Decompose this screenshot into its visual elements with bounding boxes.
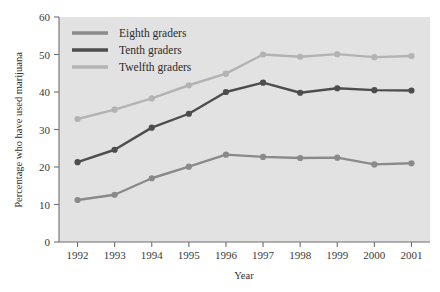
data-point (74, 116, 80, 122)
x-tick-label: 1993 (104, 249, 127, 261)
y-tick-label: 30 (39, 124, 51, 136)
y-tick-label: 60 (39, 11, 51, 23)
data-point (408, 87, 414, 93)
x-axis-ticks: 1992199319941995199619971998199920002001 (67, 242, 423, 261)
data-point (74, 159, 80, 165)
x-tick-label: 1999 (326, 249, 349, 261)
x-tick-label: 1994 (141, 249, 164, 261)
data-point (334, 85, 340, 91)
data-point (260, 51, 266, 57)
data-point (223, 152, 229, 158)
data-point (112, 192, 118, 198)
data-point (371, 87, 377, 93)
data-point (371, 54, 377, 60)
data-point (149, 175, 155, 181)
data-point (186, 111, 192, 117)
y-axis-title: Percentage who have used marijuana (13, 52, 24, 208)
data-point (223, 71, 229, 77)
x-tick-label: 2001 (400, 249, 422, 261)
x-tick-label: 1997 (252, 249, 275, 261)
data-point (223, 89, 229, 95)
chart-legend: Eighth gradersTenth gradersTwelfth grade… (72, 27, 192, 74)
y-tick-label: 50 (39, 49, 51, 61)
x-axis-title: Year (234, 270, 254, 281)
legend-label: Twelfth graders (119, 61, 192, 74)
x-tick-label: 1992 (67, 249, 89, 261)
data-point (186, 164, 192, 170)
data-point (74, 197, 80, 203)
y-tick-label: 0 (45, 236, 51, 248)
data-point (334, 51, 340, 57)
data-point (334, 155, 340, 161)
legend-label: Tenth graders (119, 44, 182, 57)
line-chart: 0102030405060 19921993199419951996199719… (0, 0, 440, 292)
x-tick-label: 1996 (215, 249, 238, 261)
data-point (260, 154, 266, 160)
data-point (112, 147, 118, 153)
legend-label: Eighth graders (119, 27, 187, 40)
data-point (186, 82, 192, 88)
x-tick-label: 1998 (289, 249, 312, 261)
y-axis-ticks: 0102030405060 (39, 11, 59, 248)
data-point (297, 155, 303, 161)
data-point (149, 125, 155, 131)
data-point (408, 53, 414, 59)
data-point (149, 95, 155, 101)
data-point (112, 107, 118, 113)
data-point (297, 90, 303, 96)
y-tick-label: 10 (39, 199, 51, 211)
chart-container: 0102030405060 19921993199419951996199719… (0, 0, 440, 292)
data-point (371, 161, 377, 167)
data-point (408, 160, 414, 166)
data-point (260, 80, 266, 86)
x-tick-label: 2000 (363, 249, 386, 261)
y-tick-label: 20 (39, 161, 51, 173)
data-point (297, 54, 303, 60)
x-tick-label: 1995 (178, 249, 201, 261)
plot-area-background (59, 17, 430, 242)
y-tick-label: 40 (39, 86, 51, 98)
